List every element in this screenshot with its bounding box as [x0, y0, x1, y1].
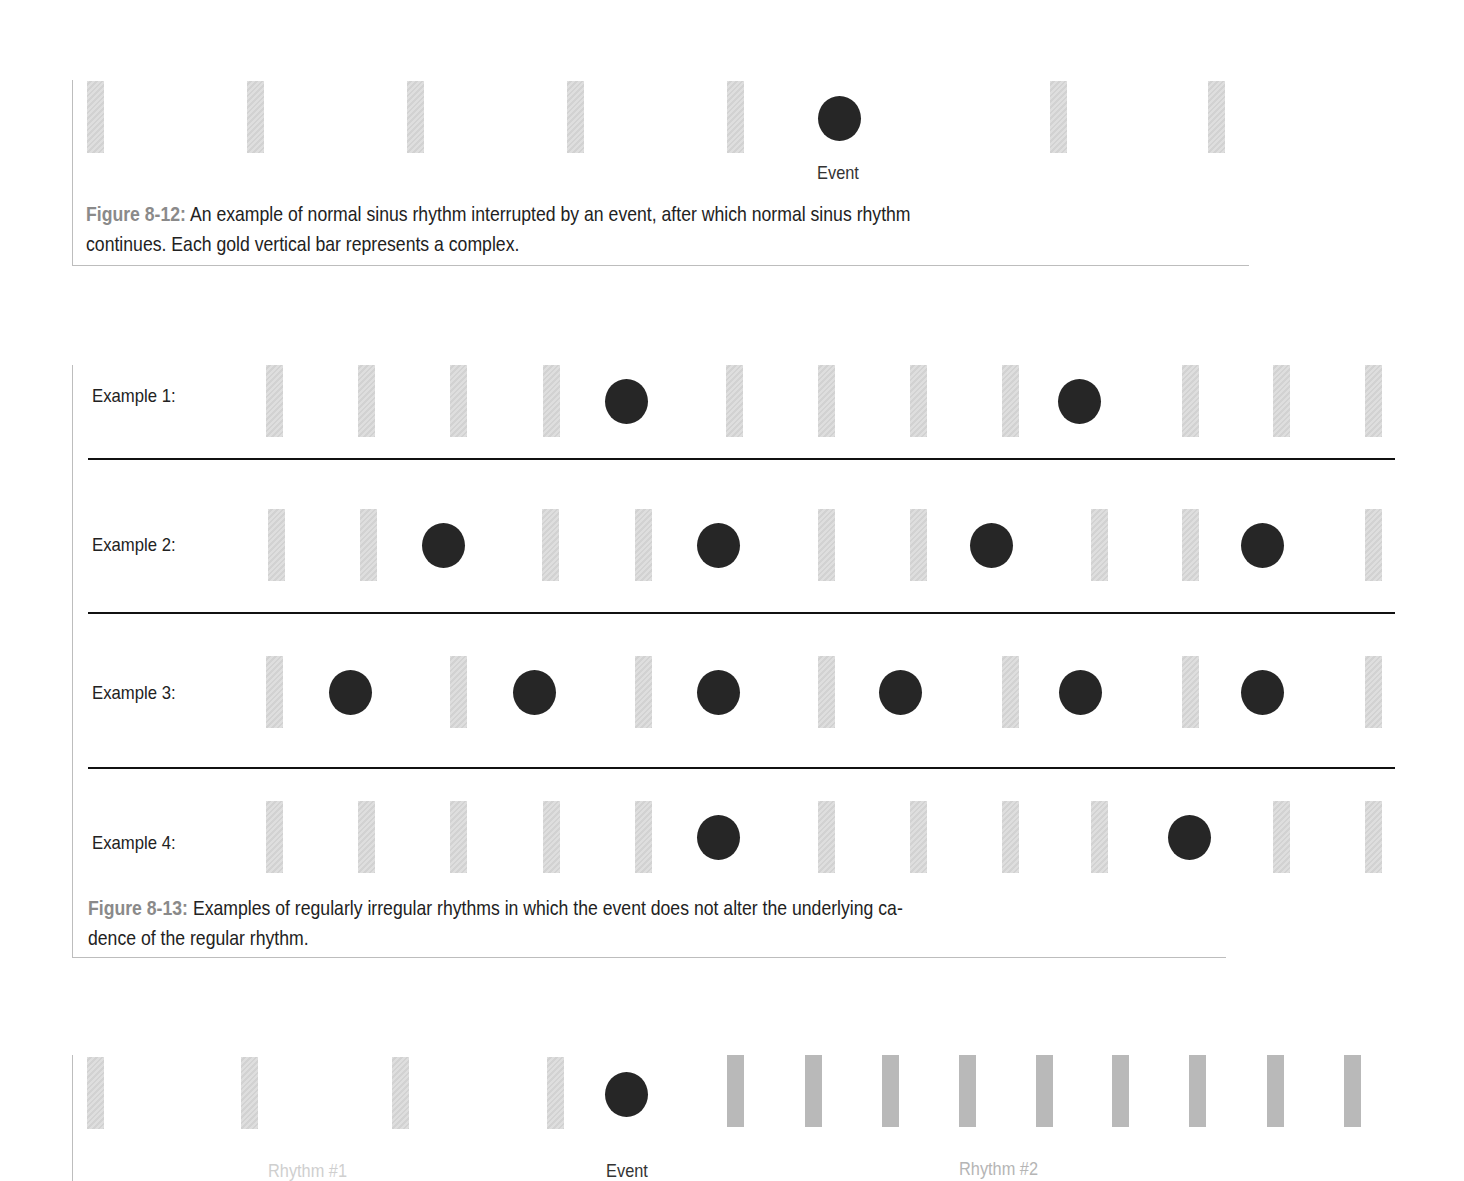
complex-bar [241, 1057, 258, 1129]
figure-left-rule [72, 365, 73, 958]
complex-bar [1267, 1055, 1284, 1127]
complex-bar [1112, 1055, 1129, 1127]
event-dot [513, 670, 556, 715]
event-dot [697, 815, 740, 860]
figure-left-rule [72, 1055, 73, 1181]
complex-bar [805, 1055, 822, 1127]
event-label: Event [584, 1160, 670, 1181]
event-dot [1241, 523, 1284, 568]
complex-bar [959, 1055, 976, 1127]
complex-bar [1050, 81, 1067, 153]
complex-bar [910, 365, 927, 437]
rhythm-1-label: Rhythm #1 [268, 1160, 354, 1181]
event-dot [879, 670, 922, 715]
event-dot [605, 1072, 648, 1117]
event-dot [1168, 815, 1211, 860]
event-dot [818, 96, 861, 141]
figure-bottom-rule [72, 957, 1226, 958]
row-separator [88, 767, 1395, 769]
complex-bar [910, 801, 927, 873]
complex-bar [910, 509, 927, 581]
complex-bar [1091, 509, 1108, 581]
complex-bar [392, 1057, 409, 1129]
complex-bar [360, 509, 377, 581]
caption-text-line1: Examples of regularly irregular rhythms … [188, 896, 903, 919]
complex-bar [818, 656, 835, 728]
complex-bar [1002, 656, 1019, 728]
event-dot [697, 523, 740, 568]
complex-bar [1182, 509, 1199, 581]
complex-bar [727, 1055, 744, 1127]
complex-bar [266, 365, 283, 437]
example-4-label: Example 4: [92, 832, 176, 854]
complex-bar [1189, 1055, 1206, 1127]
figure-left-rule [72, 80, 73, 266]
complex-bar [882, 1055, 899, 1127]
figure-bottom-rule [72, 265, 1249, 266]
complex-bar [567, 81, 584, 153]
complex-bar [450, 656, 467, 728]
example-2-label: Example 2: [92, 534, 176, 556]
complex-bar [1365, 509, 1382, 581]
row-separator [88, 612, 1395, 614]
event-dot [970, 523, 1013, 568]
figure-caption: Figure 8-13: Examples of regularly irreg… [88, 893, 1096, 953]
complex-bar [87, 81, 104, 153]
complex-bar [1002, 801, 1019, 873]
event-dot [422, 523, 465, 568]
complex-bar [1182, 365, 1199, 437]
complex-bar [635, 801, 652, 873]
complex-bar [818, 509, 835, 581]
event-dot [329, 670, 372, 715]
complex-bar [450, 801, 467, 873]
caption-text-line2: continues. Each gold vertical bar repres… [86, 232, 519, 255]
complex-bar [1182, 656, 1199, 728]
complex-bar [543, 801, 560, 873]
complex-bar [1091, 801, 1108, 873]
complex-bar [87, 1057, 104, 1129]
event-dot [1241, 670, 1284, 715]
complex-bar [726, 365, 743, 437]
complex-bar [407, 81, 424, 153]
rhythm-2-label: Rhythm #2 [959, 1158, 1062, 1180]
complex-bar [1365, 365, 1382, 437]
complex-bar [358, 365, 375, 437]
event-dot [1058, 379, 1101, 424]
example-1-label: Example 1: [92, 385, 176, 407]
complex-bar [635, 656, 652, 728]
caption-text-line1: An example of normal sinus rhythm interr… [186, 202, 911, 225]
figure-caption: Figure 8-12: An example of normal sinus … [86, 199, 1094, 259]
complex-bar [450, 365, 467, 437]
complex-bar [247, 81, 264, 153]
complex-bar [635, 509, 652, 581]
event-dot [605, 379, 648, 424]
complex-bar [1273, 365, 1290, 437]
caption-text-line2: dence of the regular rhythm. [88, 926, 309, 949]
event-dot [697, 670, 740, 715]
complex-bar [1002, 365, 1019, 437]
figure-number: Figure 8-12: [86, 202, 186, 225]
event-label: Event [795, 162, 881, 184]
complex-bar [1208, 81, 1225, 153]
row-separator [88, 458, 1395, 460]
complex-bar [818, 365, 835, 437]
complex-bar [358, 801, 375, 873]
complex-bar [1344, 1055, 1361, 1127]
complex-bar [1273, 801, 1290, 873]
complex-bar [542, 509, 559, 581]
complex-bar [1036, 1055, 1053, 1127]
complex-bar [547, 1057, 564, 1129]
complex-bar [1365, 656, 1382, 728]
complex-bar [266, 656, 283, 728]
complex-bar [818, 801, 835, 873]
complex-bar [266, 801, 283, 873]
event-dot [1059, 670, 1102, 715]
complex-bar [727, 81, 744, 153]
example-3-label: Example 3: [92, 682, 176, 704]
complex-bar [543, 365, 560, 437]
complex-bar [1365, 801, 1382, 873]
complex-bar [268, 509, 285, 581]
figure-number: Figure 8-13: [88, 896, 188, 919]
